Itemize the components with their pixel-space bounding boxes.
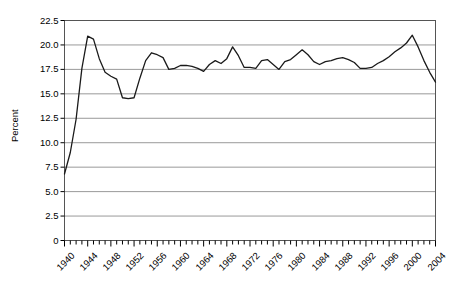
y-tick-label: 12.5 <box>25 112 59 123</box>
plot-frame-rect <box>65 21 436 241</box>
chart-figure: Percent 22.520.017.515.012.510.07.55.02.… <box>0 0 451 282</box>
y-tick-label: 10.0 <box>25 137 59 148</box>
y-axis-ticks <box>61 21 65 241</box>
series-line <box>65 35 436 174</box>
gridlines-group <box>65 21 436 217</box>
y-tick-label: 2.5 <box>25 210 59 221</box>
y-tick-label: 0 <box>25 235 59 246</box>
y-tick-label: 7.5 <box>25 161 59 172</box>
plot-border <box>65 21 436 241</box>
data-series-group <box>65 35 436 174</box>
y-tick-label: 22.5 <box>25 15 59 26</box>
plot-area <box>0 0 451 282</box>
y-tick-label: 15.0 <box>25 88 59 99</box>
y-tick-label: 20.0 <box>25 39 59 50</box>
x-axis-ticks <box>65 241 436 247</box>
y-tick-label: 17.5 <box>25 63 59 74</box>
y-tick-label: 5.0 <box>25 186 59 197</box>
